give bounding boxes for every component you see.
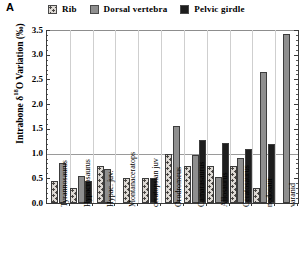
x-tick-mark: [160, 203, 161, 206]
y-tick-label: 0.0: [32, 199, 43, 208]
category-separator: [275, 30, 276, 203]
category-separator: [138, 30, 139, 203]
legend-item-dorsal-vertebra: Dorsal vertebra: [90, 5, 168, 14]
category-separator: [115, 30, 116, 203]
bar-rib: [230, 166, 237, 203]
x-axis-label: nodosaur: [266, 178, 274, 207]
y-tick-label: 3.5: [32, 26, 43, 35]
x-tick-mark: [297, 203, 298, 206]
x-tick-mark: [137, 203, 138, 206]
y-tick-label: 2.0: [32, 100, 43, 109]
x-axis-label: Orodromeus: [175, 167, 183, 207]
y-tick-label: 1.5: [32, 124, 43, 133]
x-axis-label: Montanaceratops: [129, 152, 137, 207]
x-axis-label: Camarasaurus: [198, 162, 206, 207]
x-tick-mark: [183, 203, 184, 206]
bar-rib: [97, 166, 104, 203]
x-tick-mark: [274, 203, 275, 206]
bar-dorsal-vertebra: [283, 34, 290, 203]
bar-rib: [51, 181, 58, 203]
chart-container: A Rib Dorsal vertebra Pelvic girdle 0.00…: [0, 0, 306, 271]
bar-rib: [253, 188, 260, 203]
x-axis-label: varanid: [289, 183, 297, 207]
legend-label-dorsal-vertebra: Dorsal vertebra: [104, 5, 168, 14]
category-separator: [70, 30, 71, 203]
y-axis-title: Intrabone δ18O Variation (‰): [11, 0, 24, 169]
legend-label-rib: Rib: [62, 5, 77, 14]
y-tick-label: 2.5: [32, 75, 43, 84]
y-tick-label: 1.0: [32, 149, 43, 158]
x-axis-label: Hypac. juv.: [107, 170, 115, 207]
pelvic-girdle-swatch-icon: [180, 5, 189, 14]
x-axis-label: Ceratosaurus: [243, 165, 251, 207]
bar-rib: [142, 178, 149, 203]
rib-swatch-icon: [48, 5, 57, 14]
category-separator: [252, 30, 253, 203]
x-axis-label: Tyrannosaurus: [61, 160, 69, 207]
bar-rib: [184, 166, 191, 203]
legend-item-rib: Rib: [48, 5, 77, 14]
chart-legend: Rib Dorsal vertebra Pelvic girdle: [48, 2, 303, 16]
y-tick-label: 3.0: [32, 50, 43, 59]
bar-rib: [165, 154, 172, 203]
legend-item-pelvic-girdle: Pelvic girdle: [180, 5, 244, 14]
bar-rib: [70, 188, 77, 203]
dorsal-vertebra-swatch-icon: [90, 5, 99, 14]
x-axis-label: ceratopsian juv: [152, 158, 160, 207]
legend-label-pelvic-girdle: Pelvic girdle: [194, 5, 244, 14]
category-separator: [93, 30, 94, 203]
x-tick-mark: [251, 203, 252, 206]
category-separator: [161, 30, 162, 203]
y-tick-label: 0.5: [32, 174, 43, 183]
x-axis-label: Hypacrosaurus: [84, 159, 92, 207]
bar-rib: [207, 166, 214, 203]
x-axis-label: Allosaurus: [221, 172, 229, 207]
